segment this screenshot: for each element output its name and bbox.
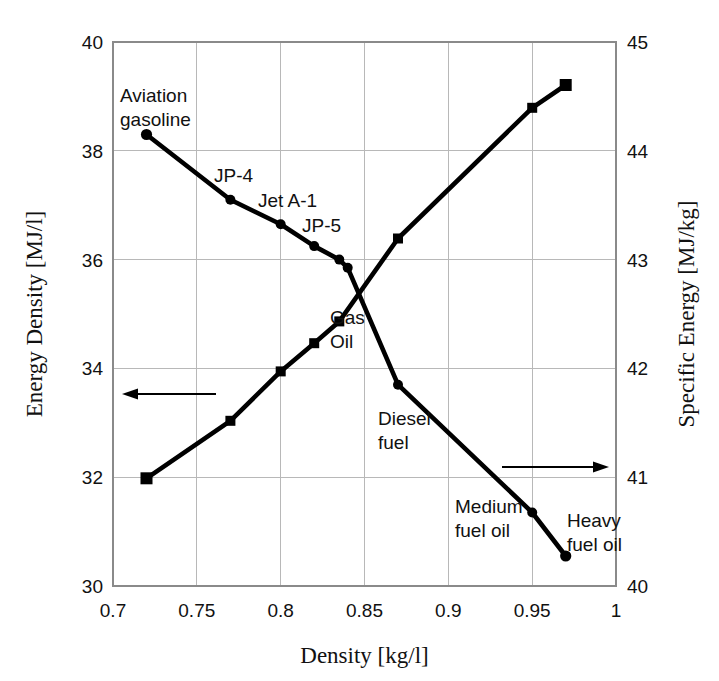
- x-tick-3: 0.85: [346, 600, 383, 621]
- annotation-line-2: Oil: [330, 331, 353, 352]
- y-tick-4: 38: [82, 141, 103, 162]
- data-point-sq-072: [141, 472, 153, 484]
- data-point-sq-087: [393, 234, 403, 244]
- data-point-sq-095: [527, 103, 537, 113]
- fuel-energy-chart: 0.7 0.75 0.8 0.85 0.9 0.95 1 30 32 34 36…: [0, 0, 719, 681]
- y2-tick-3: 43: [627, 250, 648, 271]
- data-point-sq-082: [309, 338, 319, 348]
- data-point-sq-077: [225, 416, 235, 426]
- y-left-axis-title: Energy Density [MJ/l]: [22, 211, 47, 418]
- data-point-sq-097: [560, 79, 572, 91]
- x-axis-tick-labels: 0.7 0.75 0.8 0.85 0.9 0.95 1: [100, 600, 622, 621]
- annotation-line-1: Gas: [330, 307, 365, 328]
- x-tick-4: 0.9: [435, 600, 461, 621]
- data-point-gas-oil: [343, 263, 353, 273]
- data-point-aviation-gasoline: [141, 129, 152, 140]
- annotation-line-1: Diesel: [378, 408, 431, 429]
- data-point-diesel-fuel: [393, 380, 403, 390]
- y2-tick-1: 41: [627, 467, 648, 488]
- x-tick-5: 0.95: [514, 600, 551, 621]
- annotation-line-1: Medium: [455, 496, 523, 517]
- y-tick-5: 40: [82, 32, 103, 53]
- x-axis-title: Density [kg/l]: [300, 643, 428, 668]
- y-right-axis-title: Specific Energy [MJ/kg]: [674, 201, 699, 428]
- y-tick-1: 32: [82, 467, 103, 488]
- data-point-medium-fuel-oil: [527, 508, 537, 518]
- y-tick-0: 30: [82, 576, 103, 597]
- data-point-jp5: [309, 241, 319, 251]
- data-point-unnamed-836: [334, 255, 344, 265]
- x-tick-0: 0.7: [100, 600, 126, 621]
- annotation-jet-a1: Jet A-1: [258, 190, 317, 211]
- y2-tick-4: 44: [627, 141, 649, 162]
- x-tick-2: 0.8: [267, 600, 293, 621]
- annotation-jp5: JP-5: [302, 215, 341, 236]
- y2-tick-2: 42: [627, 358, 648, 379]
- y-tick-2: 34: [82, 358, 104, 379]
- data-point-jet-a1: [276, 219, 286, 229]
- y2-tick-5: 45: [627, 32, 648, 53]
- data-point-jp4: [225, 195, 235, 205]
- data-point-sq-080: [276, 366, 286, 376]
- y-right-tick-labels: 40 41 42 43 44 45: [627, 32, 649, 597]
- annotation-line-2: fuel oil: [455, 520, 510, 541]
- y2-tick-0: 40: [627, 576, 648, 597]
- y-tick-3: 36: [82, 250, 103, 271]
- chart-container: 0.7 0.75 0.8 0.85 0.9 0.95 1 30 32 34 36…: [0, 0, 719, 681]
- annotation-line-2: fuel: [378, 432, 409, 453]
- annotation-line-2: gasoline: [120, 109, 191, 130]
- annotation-line-1: Aviation: [120, 85, 187, 106]
- annotation-line-2: fuel oil: [567, 534, 622, 555]
- y-left-tick-labels: 30 32 34 36 38 40: [82, 32, 104, 597]
- annotation-jp4: JP-4: [214, 165, 254, 186]
- x-tick-6: 1: [611, 600, 622, 621]
- x-tick-1: 0.75: [178, 600, 215, 621]
- annotation-line-1: Heavy: [567, 510, 621, 531]
